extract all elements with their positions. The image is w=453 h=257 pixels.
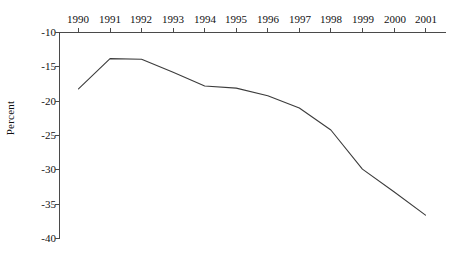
y-tick-marks	[55, 33, 59, 239]
x-tick-marks	[79, 28, 426, 32]
plot-area	[0, 0, 453, 257]
chart-figure: Percent -10 -15 -20 -25 -30 -35 -40 1990…	[0, 0, 453, 257]
data-line-percent	[79, 59, 426, 216]
